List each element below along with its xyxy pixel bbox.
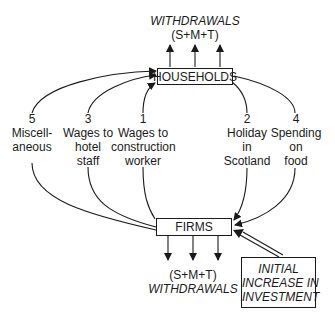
households-node: HOUSEHOLDS bbox=[157, 68, 233, 85]
investment-node: INITIAL INCREASE IN INVESTMENT bbox=[241, 257, 316, 308]
flow-1-number: 1 bbox=[111, 112, 175, 126]
top-withdrawals-title: WITHDRAWALS bbox=[150, 14, 240, 28]
bottom-withdrawals-title: WITHDRAWALS bbox=[148, 282, 238, 296]
flow-1-lower bbox=[143, 167, 155, 219]
flow-5-line-2: aneous bbox=[2, 140, 62, 154]
flow-1-upper bbox=[143, 83, 155, 113]
flow-1-line-1: Wages to bbox=[111, 126, 175, 140]
flow-2-number: 2 bbox=[219, 112, 275, 126]
flow-5-label: 5 Miscell- aneous bbox=[2, 112, 62, 154]
investment-line-2: INCREASE IN bbox=[242, 276, 315, 290]
flow-4-number: 4 bbox=[268, 112, 324, 126]
investment-line-1: INITIAL bbox=[242, 262, 315, 276]
flow-1-label: 1 Wages to construction worker bbox=[111, 112, 175, 168]
flow-4-line-2: on bbox=[268, 140, 324, 154]
flow-5-number: 5 bbox=[2, 112, 62, 126]
flow-2-label: 2 Holiday in Scotland bbox=[219, 112, 275, 168]
flow-5-upper bbox=[32, 71, 156, 113]
flow-3-line-1: Wages to bbox=[60, 126, 116, 140]
top-withdrawals-formula: (S+M+T) bbox=[160, 28, 230, 42]
investment-arrow-line-a bbox=[240, 235, 279, 257]
flow-3-number: 3 bbox=[60, 112, 116, 126]
flow-1-line-2: construction bbox=[111, 140, 175, 154]
flow-1-line-3: worker bbox=[111, 154, 175, 168]
flow-2-upper bbox=[232, 82, 247, 113]
flow-4-label: 4 Spending on food bbox=[268, 112, 324, 168]
flow-2-line-2: in bbox=[219, 140, 275, 154]
flow-2-line-1: Holiday bbox=[219, 126, 275, 140]
households-label: HOUSEHOLDS bbox=[153, 70, 237, 84]
flow-4-line-1: Spending bbox=[268, 126, 324, 140]
investment-line-3: INVESTMENT bbox=[242, 290, 315, 304]
flow-2-lower bbox=[234, 168, 247, 220]
firms-node: FIRMS bbox=[156, 218, 232, 236]
firms-label: FIRMS bbox=[175, 220, 212, 234]
flow-3-line-3: staff bbox=[60, 154, 116, 168]
investment-arrow-line-b bbox=[243, 232, 283, 255]
flow-5-line-1: Miscell- bbox=[2, 126, 62, 140]
flow-2-line-3: Scotland bbox=[219, 154, 275, 168]
flow-3-line-2: hotel bbox=[60, 140, 116, 154]
flow-4-line-3: food bbox=[268, 154, 324, 168]
bottom-withdrawals-formula: (S+M+T) bbox=[158, 268, 228, 282]
flow-5-lower bbox=[32, 163, 156, 230]
flow-3-label: 3 Wages to hotel staff bbox=[60, 112, 116, 168]
